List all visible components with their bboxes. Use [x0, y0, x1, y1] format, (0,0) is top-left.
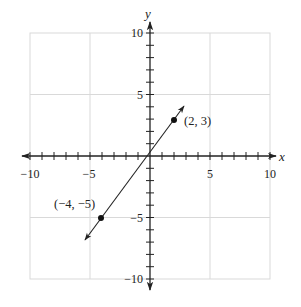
coordinate-plane: x y −10 −5 5 10 10 5 −5 −10 (−4, −5) (2,…: [0, 0, 301, 307]
x-tick-label: −10: [21, 167, 40, 181]
x-tick-label: 10: [264, 167, 276, 181]
x-tick-label: 5: [207, 167, 213, 181]
y-axis-label: y: [143, 6, 151, 21]
x-axis-label: x: [278, 149, 285, 164]
y-tick-label: −10: [124, 272, 143, 286]
point-a-label: (−4, −5): [54, 197, 95, 211]
point-a: [98, 215, 104, 221]
point-b: [171, 117, 177, 123]
x-tick-label: −5: [83, 167, 96, 181]
y-tick-label: 10: [131, 26, 143, 40]
y-tick-label: 5: [137, 88, 143, 102]
point-b-label: (2, 3): [184, 114, 211, 128]
y-tick-label: −5: [130, 211, 143, 225]
